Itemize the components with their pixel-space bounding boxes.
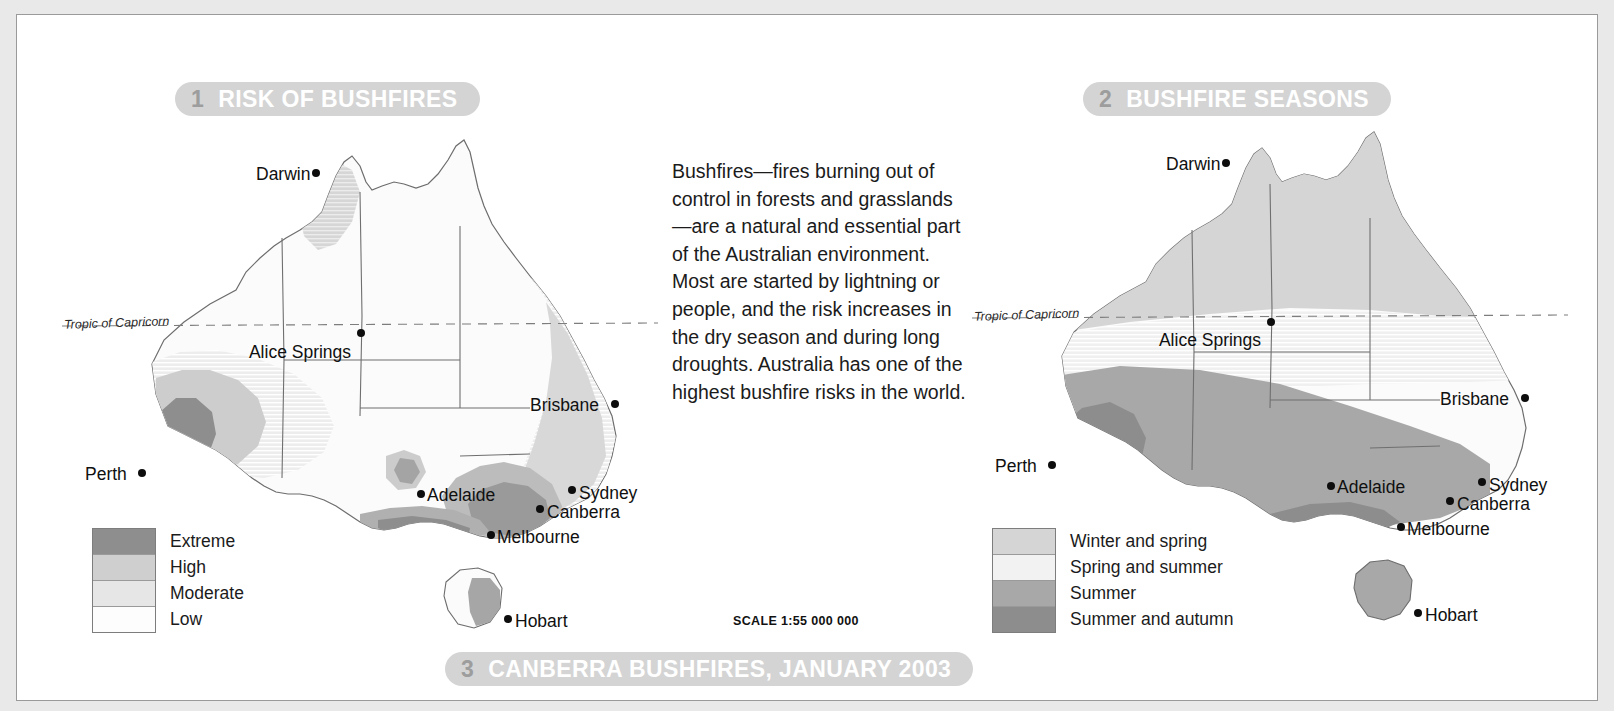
- city-label-adelaide: Adelaide: [427, 487, 495, 505]
- city-dot-darwin: [1222, 159, 1230, 167]
- city-label-perth: Perth: [995, 458, 1037, 476]
- city-dot-perth: [138, 469, 146, 477]
- section-number: 3: [461, 658, 474, 681]
- city-dot-alice-springs: [1267, 318, 1275, 326]
- city-label-sydney: Sydney: [1489, 477, 1547, 495]
- city-dot-sydney: [1478, 478, 1486, 486]
- city-label-alice-springs: Alice Springs: [1159, 332, 1261, 350]
- section-number: 1: [191, 88, 204, 111]
- city-label-melbourne: Melbourne: [1407, 521, 1490, 539]
- section-title-bushfire-seasons: 2 BUSHFIRE SEASONS: [1083, 82, 1391, 116]
- city-label-hobart: Hobart: [515, 613, 568, 631]
- legend-swatch-low: [93, 607, 155, 632]
- legend-label-high: High: [170, 554, 244, 580]
- section-title-text: BUSHFIRE SEASONS: [1126, 88, 1369, 111]
- city-label-alice-springs: Alice Springs: [249, 344, 351, 362]
- legend-swatch-moderate: [93, 581, 155, 607]
- bushfire-seasons-map: Tropic of Capricorn DarwinAlice SpringsB…: [970, 126, 1570, 636]
- seasons-map-city-layer: DarwinAlice SpringsBrisbanePerthAdelaide…: [970, 126, 1570, 636]
- city-dot-adelaide: [417, 490, 425, 498]
- city-label-melbourne: Melbourne: [497, 529, 580, 547]
- city-label-canberra: Canberra: [1457, 496, 1530, 514]
- page-frame: 1 RISK OF BUSHFIRES 2 BUSHFIRE SEASONS 3…: [0, 0, 1614, 711]
- city-label-darwin: Darwin: [1166, 156, 1220, 174]
- city-dot-melbourne: [1397, 523, 1405, 531]
- section-number: 2: [1099, 88, 1112, 111]
- city-dot-canberra: [536, 505, 544, 513]
- city-dot-brisbane: [611, 400, 619, 408]
- city-dot-hobart: [1414, 609, 1422, 617]
- city-label-brisbane: Brisbane: [530, 397, 599, 415]
- legend-swatch-high: [93, 555, 155, 581]
- section-title-risk-of-bushfires: 1 RISK OF BUSHFIRES: [175, 82, 480, 116]
- city-label-darwin: Darwin: [256, 166, 310, 184]
- city-dot-brisbane: [1521, 394, 1529, 402]
- legend-swatch-winter-and-spring: [993, 529, 1055, 555]
- city-label-perth: Perth: [85, 466, 127, 484]
- legend-swatch-extreme: [93, 529, 155, 555]
- legend-label-spring-and-summer: Spring and summer: [1070, 554, 1233, 580]
- city-dot-hobart: [504, 615, 512, 623]
- legend-swatch-spring-and-summer: [993, 555, 1055, 581]
- legend-swatch-column: [992, 528, 1056, 633]
- legend-swatch-summer: [993, 581, 1055, 607]
- legend-swatch-summer-and-autumn: [993, 607, 1055, 632]
- city-label-adelaide: Adelaide: [1337, 479, 1405, 497]
- legend-label-column: Winter and springSpring and summerSummer…: [1070, 528, 1233, 632]
- city-dot-sydney: [568, 486, 576, 494]
- city-label-sydney: Sydney: [579, 485, 637, 503]
- page-canvas: 1 RISK OF BUSHFIRES 2 BUSHFIRE SEASONS 3…: [20, 18, 1594, 697]
- legend-label-summer: Summer: [1070, 580, 1233, 606]
- city-label-brisbane: Brisbane: [1440, 391, 1509, 409]
- section-title-canberra-bushfires: 3 CANBERRA BUSHFIRES, JANUARY 2003: [445, 652, 973, 686]
- city-dot-melbourne: [487, 531, 495, 539]
- city-dot-perth: [1048, 461, 1056, 469]
- legend-label-column: ExtremeHighModerateLow: [170, 528, 244, 632]
- legend-label-low: Low: [170, 606, 244, 632]
- city-dot-canberra: [1446, 497, 1454, 505]
- section-title-text: CANBERRA BUSHFIRES, JANUARY 2003: [488, 658, 951, 681]
- legend-label-summer-and-autumn: Summer and autumn: [1070, 606, 1233, 632]
- city-label-canberra: Canberra: [547, 504, 620, 522]
- scale-note: SCALE 1:55 000 000: [733, 614, 953, 628]
- city-label-hobart: Hobart: [1425, 607, 1478, 625]
- legend-swatch-column: [92, 528, 156, 633]
- city-dot-adelaide: [1327, 482, 1335, 490]
- intro-paragraph: Bushfires—fires burning out of control i…: [672, 158, 972, 406]
- city-dot-alice-springs: [357, 329, 365, 337]
- city-dot-darwin: [312, 169, 320, 177]
- legend-label-winter-and-spring: Winter and spring: [1070, 528, 1233, 554]
- legend-label-extreme: Extreme: [170, 528, 244, 554]
- legend-label-moderate: Moderate: [170, 580, 244, 606]
- section-title-text: RISK OF BUSHFIRES: [218, 88, 457, 111]
